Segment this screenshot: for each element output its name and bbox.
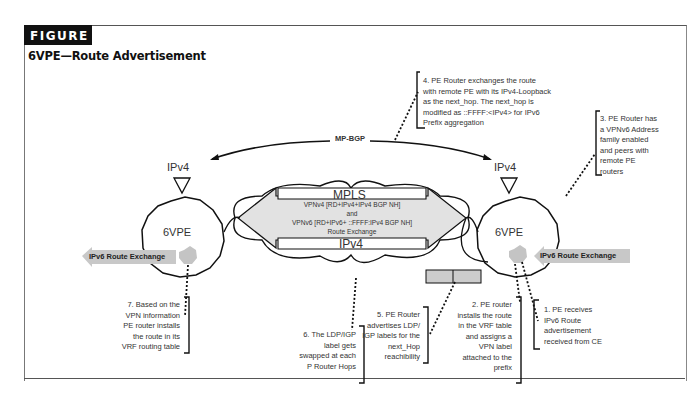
note-2: 2. PE router installs the route in the V… [430,300,512,374]
label-box [426,270,481,283]
note-2-line: prefix [430,363,512,374]
core-line-route-exchange: Route Exchange [270,227,434,236]
left-transport-label: IPv4 [167,161,189,173]
note-5-line: IGP labels for the [340,331,420,342]
note-5-line: reachibility [340,352,420,363]
core-center-text: VPNv4 [RD+IPv4+IPv4 BGP NH] and VPNv6 [R… [270,200,434,236]
note-3-line: routers [600,167,680,178]
note-7-line: 7. Based on the [100,300,180,311]
core-line-and: and [270,209,434,218]
core-line-vpnv4: VPNv4 [RD+IPv4+IPv4 BGP NH] [270,200,434,209]
mp-bgp-label: MP-BGP [333,134,367,143]
note-4-line: as the next_hop. The next_hop is [423,97,583,108]
note-4-line: 4. PE Router exchanges the route [423,76,583,87]
left-arrow-label: IPv6 Route Exchange [89,252,165,261]
note-5-line: next_Hop [340,342,420,353]
note-2-line: in the VRF table [430,321,512,332]
note-2-line: 2. PE router [430,300,512,311]
note-2-line: VPN label [430,342,512,353]
note-7-line: VRF routing table [100,342,180,353]
note-4-line: Prefix aggregation [423,118,583,129]
note-3-line: a VPNv6 Address [600,125,680,136]
note-5-line: 5. PE Router [340,310,420,321]
note-1: 1. PE receives IPv6 Route advertisement … [544,305,634,347]
note-3-line: 3. PE Router has [600,114,680,125]
note-1-line: received from CE [544,337,634,348]
mp-bgp-arc [210,141,492,160]
right-arrow-label: IPv6 Route Exchange [540,251,616,260]
note-4-line: with remote PE with its IPv4-Loopback [423,87,583,98]
note-6-line: P Router Hops [276,362,356,373]
note-5-line: advertises LDP/ [340,321,420,332]
note-7: 7. Based on the VPN information PE route… [100,300,180,353]
note-3-line: and peers with [600,146,680,157]
note-3-line: family enabled [600,135,680,146]
note-7-line: PE router installs [100,321,180,332]
note-2-line: attached to the [430,353,512,364]
note-7-line: the route in its [100,332,180,343]
note-4: 4. PE Router exchanges the route with re… [423,76,583,129]
core-line-vpnv6: VPNv6 [RD+IPv6+ ::FFFF:IPv4 BGP NH] [270,218,434,227]
note-1-line: 1. PE receives [544,305,634,316]
note-1-line: IPv6 Route [544,316,634,327]
note-3-line: remote PE [600,156,680,167]
note-4-line: modified as ::FFFF:<IPv4> for IPv6 [423,108,583,119]
note-2-line: installs the route [430,311,512,322]
right-transport-label: IPv4 [494,161,516,173]
note-2-line: and assigns a [430,332,512,343]
core-bottom-label: IPv4 [339,237,363,251]
right-router-name: 6VPE [495,226,523,238]
note-3: 3. PE Router has a VPNv6 Address family … [600,114,680,177]
left-router-name: 6VPE [163,226,191,238]
note-7-line: VPN information [100,311,180,322]
note-5: 5. PE Router advertises LDP/ IGP labels … [340,310,420,363]
note-1-line: advertisement [544,326,634,337]
